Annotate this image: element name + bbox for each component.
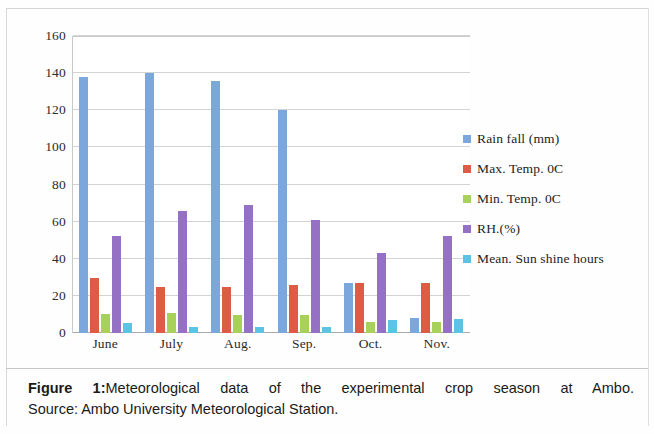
legend-swatch-icon bbox=[463, 165, 471, 173]
x-axis-tick-label: Aug. bbox=[205, 336, 271, 352]
bar bbox=[344, 283, 353, 333]
bar bbox=[211, 81, 220, 333]
bar bbox=[311, 220, 320, 333]
y-axis: 020406080100120140160 bbox=[0, 36, 66, 333]
caption-text: Meteorological data of the experimental … bbox=[106, 380, 634, 396]
bar bbox=[90, 278, 99, 333]
bar bbox=[366, 322, 375, 333]
bar bbox=[123, 323, 132, 333]
x-axis-tick-label: Sep. bbox=[271, 336, 337, 352]
caption-line-2: Source: Ambo University Meteorological S… bbox=[28, 399, 634, 420]
bar bbox=[255, 327, 264, 333]
bar bbox=[189, 327, 198, 333]
bar bbox=[112, 236, 121, 333]
bar bbox=[145, 73, 154, 333]
bar bbox=[388, 320, 397, 333]
legend-swatch-icon bbox=[463, 225, 471, 233]
bar bbox=[222, 287, 231, 333]
bar bbox=[156, 287, 165, 333]
legend-swatch-icon bbox=[463, 135, 471, 143]
legend-label: Min. Temp. 0C bbox=[477, 191, 561, 207]
x-axis-tick-label: Oct. bbox=[337, 336, 403, 352]
bar bbox=[289, 285, 298, 333]
bar-group bbox=[271, 36, 337, 333]
y-axis-tick-label: 100 bbox=[6, 141, 66, 155]
legend-label: RH.(%) bbox=[477, 221, 520, 237]
bar bbox=[178, 211, 187, 334]
bar bbox=[421, 283, 430, 333]
bar bbox=[79, 77, 88, 333]
legend-item: RH.(%) bbox=[463, 214, 649, 244]
y-axis-tick-label: 120 bbox=[6, 104, 66, 118]
bar bbox=[432, 322, 441, 333]
caption-line-1: Figure 1:Meteorological data of the expe… bbox=[28, 378, 634, 399]
legend-label: Mean. Sun shine hours bbox=[477, 251, 604, 267]
y-axis-tick-label: 20 bbox=[6, 289, 66, 303]
bar-group bbox=[205, 36, 271, 333]
bar bbox=[101, 314, 110, 333]
figure-caption: Figure 1:Meteorological data of the expe… bbox=[28, 378, 634, 420]
y-axis-tick-label: 140 bbox=[6, 66, 66, 80]
chart-legend: Rain fall (mm)Max. Temp. 0CMin. Temp. 0C… bbox=[463, 124, 649, 274]
bar bbox=[377, 253, 386, 333]
legend-item: Rain fall (mm) bbox=[463, 124, 649, 154]
bar-group bbox=[337, 36, 403, 333]
y-axis-tick-label: 40 bbox=[6, 252, 66, 266]
x-axis-tick-label: June bbox=[72, 336, 138, 352]
bar bbox=[355, 283, 364, 333]
figure-number: Figure 1: bbox=[28, 380, 106, 396]
legend-label: Max. Temp. 0C bbox=[477, 161, 563, 177]
bar-group bbox=[72, 36, 138, 333]
bar-chart: 020406080100120140160 JuneJulyAug.Sep.Oc… bbox=[0, 0, 654, 366]
legend-item: Min. Temp. 0C bbox=[463, 184, 649, 214]
bars-layer bbox=[72, 36, 470, 333]
legend-label: Rain fall (mm) bbox=[477, 131, 559, 147]
bar bbox=[233, 315, 242, 333]
figure-container: 020406080100120140160 JuneJulyAug.Sep.Oc… bbox=[0, 0, 654, 434]
x-axis: JuneJulyAug.Sep.Oct.Nov. bbox=[72, 336, 470, 352]
bar bbox=[454, 319, 463, 333]
bar bbox=[410, 318, 419, 333]
bar-group bbox=[404, 36, 470, 333]
y-axis-tick-label: 80 bbox=[6, 178, 66, 192]
legend-swatch-icon bbox=[463, 195, 471, 203]
bar bbox=[300, 315, 309, 333]
bar-group bbox=[138, 36, 204, 333]
bar bbox=[278, 110, 287, 333]
legend-item: Mean. Sun shine hours bbox=[463, 244, 649, 274]
bar bbox=[443, 236, 452, 333]
bar bbox=[244, 205, 253, 333]
x-axis-tick-label: Nov. bbox=[404, 336, 470, 352]
y-axis-tick-label: 0 bbox=[6, 326, 66, 340]
legend-item: Max. Temp. 0C bbox=[463, 154, 649, 184]
y-axis-tick-label: 60 bbox=[6, 215, 66, 229]
bar bbox=[322, 327, 331, 333]
x-axis-tick-label: July bbox=[138, 336, 204, 352]
caption-divider bbox=[6, 368, 648, 369]
bar bbox=[167, 313, 176, 333]
y-axis-tick-label: 160 bbox=[6, 29, 66, 43]
legend-swatch-icon bbox=[463, 255, 471, 263]
